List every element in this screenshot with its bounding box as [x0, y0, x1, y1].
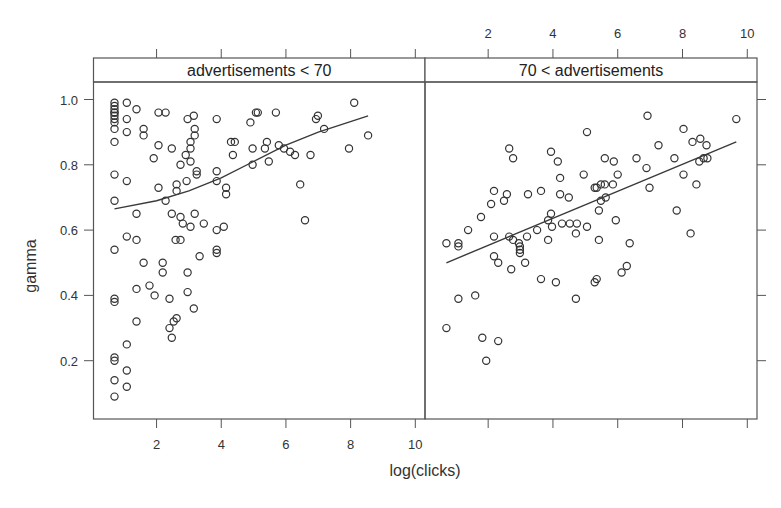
- data-point: [123, 341, 130, 348]
- data-point: [155, 142, 162, 149]
- data-point: [179, 220, 186, 227]
- x-tick-label-bottom: 4: [218, 437, 225, 452]
- data-point: [479, 334, 486, 341]
- data-points: [111, 99, 372, 400]
- data-point: [522, 259, 529, 266]
- data-point: [583, 129, 590, 136]
- panels: advertisements < 7070 < advertisements: [94, 58, 758, 419]
- data-point: [595, 236, 602, 243]
- data-point: [573, 220, 580, 227]
- data-point: [177, 161, 184, 168]
- data-point: [548, 223, 555, 230]
- data-point: [146, 282, 153, 289]
- data-point: [572, 295, 579, 302]
- data-point: [601, 155, 608, 162]
- data-point: [680, 125, 687, 132]
- data-points: [443, 112, 740, 364]
- data-point: [155, 109, 162, 116]
- data-point: [123, 99, 130, 106]
- data-point: [307, 151, 314, 158]
- data-point: [213, 227, 220, 234]
- data-point: [111, 197, 118, 204]
- data-point: [572, 230, 579, 237]
- data-point: [133, 236, 140, 243]
- data-point: [614, 171, 621, 178]
- data-point: [697, 135, 704, 142]
- data-point: [177, 236, 184, 243]
- data-point: [190, 112, 197, 119]
- data-point: [249, 145, 256, 152]
- data-point: [111, 138, 118, 145]
- data-point: [182, 151, 189, 158]
- data-point: [111, 171, 118, 178]
- data-point: [490, 233, 497, 240]
- x-tick-label-top: 4: [549, 26, 556, 41]
- x-tick-label-bottom: 6: [282, 437, 289, 452]
- data-point: [537, 187, 544, 194]
- data-point: [351, 99, 358, 106]
- strip-label: advertisements < 70: [187, 62, 332, 79]
- data-point: [123, 178, 130, 185]
- fit-line: [115, 116, 369, 209]
- y-tick-label: 0.2: [60, 354, 78, 369]
- data-point: [220, 223, 227, 230]
- data-point: [552, 279, 559, 286]
- x-tick-label-top: 8: [679, 26, 686, 41]
- data-point: [133, 318, 140, 325]
- data-point: [495, 338, 502, 345]
- strip-label: 70 < advertisements: [519, 62, 664, 79]
- data-point: [565, 194, 572, 201]
- data-point: [166, 325, 173, 332]
- data-point: [168, 145, 175, 152]
- data-point: [509, 155, 516, 162]
- data-point: [612, 217, 619, 224]
- data-point: [159, 269, 166, 276]
- data-point: [229, 151, 236, 158]
- data-point: [150, 155, 157, 162]
- data-point: [547, 210, 554, 217]
- data-point: [301, 217, 308, 224]
- data-point: [272, 109, 279, 116]
- data-point: [196, 253, 203, 260]
- data-point: [187, 223, 194, 230]
- data-point: [545, 236, 552, 243]
- data-point: [557, 191, 564, 198]
- data-point: [689, 138, 696, 145]
- data-point: [646, 184, 653, 191]
- data-point: [595, 207, 602, 214]
- data-point: [183, 178, 190, 185]
- data-point: [465, 227, 472, 234]
- data-point: [490, 253, 497, 260]
- data-point: [472, 292, 479, 299]
- x-tick-label-top: 10: [740, 26, 754, 41]
- data-point: [626, 240, 633, 247]
- data-point: [155, 184, 162, 191]
- data-point: [213, 168, 220, 175]
- data-point: [111, 246, 118, 253]
- data-point: [123, 233, 130, 240]
- data-point: [490, 187, 497, 194]
- data-point: [524, 191, 531, 198]
- x-tick-label-top: 2: [485, 26, 492, 41]
- data-point: [703, 142, 710, 149]
- data-point: [168, 210, 175, 217]
- data-point: [263, 138, 270, 145]
- data-point: [133, 106, 140, 113]
- data-point: [644, 112, 651, 119]
- data-point: [580, 171, 587, 178]
- data-point: [655, 142, 662, 149]
- x-axis-title: log(clicks): [389, 462, 460, 479]
- x-tick-label-bottom: 2: [153, 437, 160, 452]
- data-point: [609, 181, 616, 188]
- data-point: [671, 155, 678, 162]
- data-point: [534, 227, 541, 234]
- data-point: [623, 262, 630, 269]
- data-point: [123, 383, 130, 390]
- data-point: [557, 174, 564, 181]
- data-point: [191, 210, 198, 217]
- data-point: [680, 171, 687, 178]
- data-point: [133, 210, 140, 217]
- panel-2: 70 < advertisements: [425, 58, 757, 419]
- x-tick-label-bottom: 10: [408, 437, 422, 452]
- data-point: [166, 295, 173, 302]
